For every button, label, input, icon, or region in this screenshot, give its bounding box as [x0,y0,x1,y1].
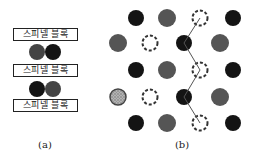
vacancy-site [143,90,158,105]
ion-black [225,115,241,131]
ion-gray [109,34,127,52]
ion-gray [211,88,229,106]
ion-black [225,10,241,26]
ion-black [128,10,144,26]
ion-black [128,115,144,131]
ion-gray [211,34,229,52]
ion-gray [158,9,176,27]
ion-black [128,62,144,78]
ion-speckled [110,89,126,105]
conduction-plane-lattice [0,0,259,164]
ion-black [225,62,241,78]
panel-b-label: (b) [175,139,189,150]
vacancy-site [143,36,158,51]
ion-gray [158,114,176,132]
ion-gray [158,61,176,79]
